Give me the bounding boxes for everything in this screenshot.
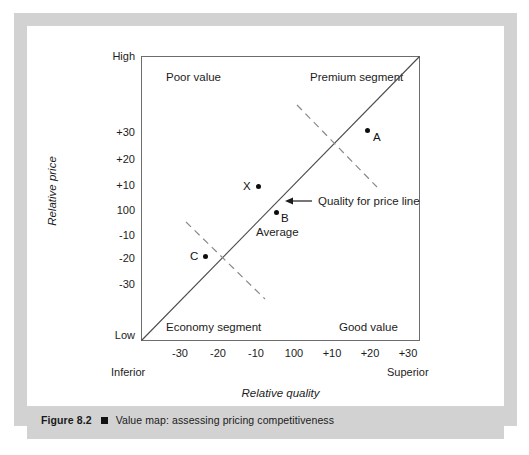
quadrant-label-economy-segment: Economy segment: [166, 321, 261, 333]
data-point-label-C: C: [190, 250, 198, 262]
x-axis-high-label: Superior: [387, 366, 429, 378]
y-tick-5: -20: [101, 252, 135, 264]
y-tick-2: +10: [101, 179, 135, 191]
x-tick-1: -20: [201, 347, 235, 359]
x-tick-0: -30: [163, 347, 197, 359]
data-point-X[interactable]: [256, 184, 261, 189]
quadrant-label-poor-value: Poor value: [166, 71, 221, 83]
data-point-label-B: B: [281, 212, 289, 224]
data-point-label-X: X: [243, 180, 251, 192]
y-tick-3: 100: [101, 204, 135, 216]
x-tick-2: -10: [239, 347, 273, 359]
y-tick-1: +20: [101, 153, 135, 165]
data-point-C[interactable]: [203, 254, 208, 259]
x-axis-low-label: Inferior: [111, 366, 145, 378]
y-tick-4: -10: [101, 229, 135, 241]
data-point-B[interactable]: [274, 210, 279, 215]
figure-page: Relative price High Low +30 +20 +10 100 …: [0, 0, 529, 455]
black-square-icon: [101, 417, 108, 424]
x-axis-title: Relative quality: [141, 387, 420, 399]
figure-caption: Figure 8.2 Value map: assessing pricing …: [41, 414, 334, 426]
y-tick-6: -30: [101, 278, 135, 290]
figure-caption-text: Value map: assessing pricing competitive…: [116, 414, 334, 426]
y-axis-high-label: High: [101, 50, 135, 62]
x-tick-6: +30: [391, 347, 425, 359]
y-axis-title: Relative price: [46, 131, 58, 251]
annotation-quality-for-price-line: Quality for price line: [318, 195, 420, 207]
x-tick-4: +10: [315, 347, 349, 359]
annotation-average: Average: [256, 226, 299, 238]
figure-number: Figure 8.2: [41, 414, 92, 426]
value-map-chart: Relative price High Low +30 +20 +10 100 …: [0, 0, 529, 455]
x-tick-5: +20: [353, 347, 387, 359]
quadrant-label-good-value: Good value: [339, 321, 398, 333]
quadrant-label-premium-segment: Premium segment: [310, 71, 403, 83]
y-tick-0: +30: [101, 126, 135, 138]
data-point-A[interactable]: [365, 128, 370, 133]
y-axis-low-label: Low: [101, 329, 135, 341]
x-tick-3: 100: [277, 347, 311, 359]
data-point-label-A: A: [373, 131, 381, 143]
